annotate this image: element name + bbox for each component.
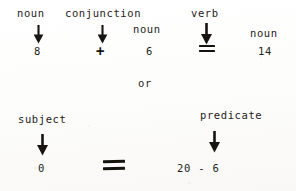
- label-noun-3: noun: [250, 28, 278, 39]
- down-arrow-icon-conjunction-1: [96, 24, 109, 44]
- operator-equals-2: [103, 160, 125, 171]
- label-conjunction-1: conjunction: [65, 8, 141, 19]
- value-6: 6: [146, 46, 153, 57]
- down-arrow-icon-noun-1: [32, 24, 45, 44]
- label-noun-1: noun: [17, 8, 45, 19]
- diagram-page: noun 8 conjunction + noun 6 verb = noun …: [0, 0, 296, 191]
- down-arrow-icon-subject: [35, 133, 50, 156]
- operator-plus: +: [96, 44, 104, 58]
- connector-or: or: [138, 78, 152, 89]
- value-14: 14: [258, 46, 272, 57]
- value-0: 0: [38, 163, 45, 174]
- expression-20-6: 20 - 6: [177, 163, 220, 174]
- value-8: 8: [34, 46, 41, 57]
- label-noun-2: noun: [133, 24, 161, 35]
- operator-equals: [199, 45, 215, 54]
- label-verb-1: verb: [191, 8, 219, 19]
- label-predicate: predicate: [200, 110, 262, 121]
- down-arrow-icon-verb-1: [199, 22, 214, 45]
- label-subject: subject: [18, 114, 66, 125]
- down-arrow-icon-predicate: [207, 130, 222, 153]
